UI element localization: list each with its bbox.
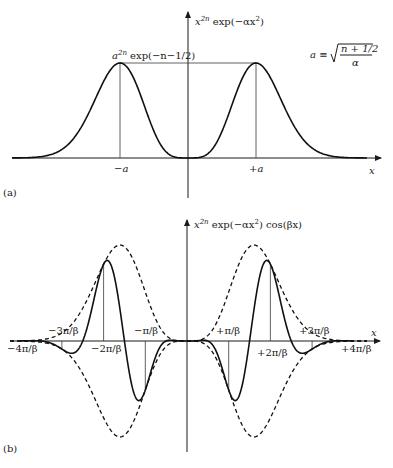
tick-label-plus-2pi: +2π/β xyxy=(257,347,288,358)
envelope-lower xyxy=(10,341,367,437)
tick-label-minus-pi: −π/β xyxy=(134,325,158,336)
tick-label-minus-3pi: −3π/β xyxy=(48,325,79,336)
tick-label-minus-2pi: −2π/β xyxy=(91,343,122,354)
svg-text:n + 1/2: n + 1/2 xyxy=(341,43,378,54)
panel-label-b: (b) xyxy=(3,443,17,454)
peak-value-label: a2n exp(−n−1/2) xyxy=(112,49,195,61)
y-axis-label-a: x2n exp(−αx2) xyxy=(195,15,264,27)
tick-label-plus-3pi: +3π/β xyxy=(299,325,330,336)
curve-a xyxy=(12,63,367,158)
x-axis-label-a: x xyxy=(369,165,375,176)
definition-a: a ≡ n + 1/2 α xyxy=(310,43,378,68)
panel-a: x2n exp(−αx2) a2n exp(−n−1/2) a ≡ n + 1/… xyxy=(3,12,381,198)
x-axis-label-b: x xyxy=(371,327,377,338)
figure-canvas: x2n exp(−αx2) a2n exp(−n−1/2) a ≡ n + 1/… xyxy=(0,0,393,468)
y-axis-label-b: x2n exp(−αx2) cos(βx) xyxy=(194,218,302,230)
svg-text:a ≡: a ≡ xyxy=(310,49,328,60)
tick-label-plus-4pi: +4π/β xyxy=(341,343,372,354)
tick-label-minus-a: −a xyxy=(114,163,128,174)
tick-label-minus-4pi: −4π/β xyxy=(7,343,38,354)
panel-b: x2n exp(−αx2) cos(βx) −4π/β −3π/β −2π/β … xyxy=(3,218,380,454)
tick-label-plus-a: +a xyxy=(249,163,263,174)
tick-label-plus-pi: +π/β xyxy=(216,325,240,336)
panel-label-a: (a) xyxy=(3,187,17,198)
svg-text:α: α xyxy=(352,57,359,68)
